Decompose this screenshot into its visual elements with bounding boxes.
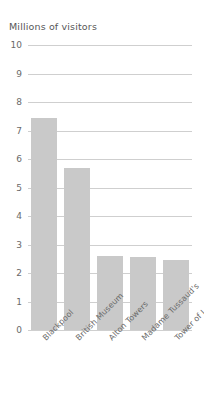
y-axis-tick-label: 8 xyxy=(16,97,22,107)
y-axis-tick-label: 6 xyxy=(16,154,22,164)
y-axis-tick-label: 1 xyxy=(16,297,22,307)
y-axis-tick-label: 4 xyxy=(16,211,22,221)
bar xyxy=(64,168,90,330)
plot-area: 012345678910 xyxy=(28,45,192,330)
y-axis-tick-label: 7 xyxy=(16,126,22,136)
chart-title: Millions of visitors xyxy=(9,21,97,32)
x-axis-labels: BlackpoolBritish MuseumAlton TowersMadam… xyxy=(28,330,192,405)
y-axis-tick-label: 5 xyxy=(16,183,22,193)
bar xyxy=(31,118,57,330)
y-axis-tick-label: 0 xyxy=(16,325,22,335)
y-axis-tick-label: 3 xyxy=(16,240,22,250)
y-axis-tick-label: 9 xyxy=(16,69,22,79)
bar-series xyxy=(28,45,192,330)
bar-chart: Millions of visitors 012345678910 Blackp… xyxy=(0,0,204,405)
y-axis-tick-label: 2 xyxy=(16,268,22,278)
y-axis-tick-label: 10 xyxy=(11,40,22,50)
